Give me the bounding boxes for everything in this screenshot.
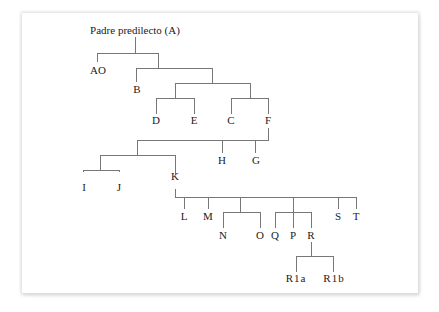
node-r1a: R1a (286, 272, 307, 284)
node-e: E (191, 114, 198, 126)
node-f: F (265, 114, 271, 126)
node-r: R (307, 229, 315, 241)
node-m: M (203, 210, 213, 222)
edge-no-bar (224, 213, 261, 229)
node-ao: AO (90, 64, 106, 76)
edge-f-bar (138, 141, 269, 156)
node-c: C (227, 114, 234, 126)
node-d: D (152, 114, 160, 126)
node-p: P (290, 229, 296, 241)
node-t: T (353, 210, 360, 222)
node-i: I (82, 181, 86, 193)
edge-ij-bar (84, 156, 120, 173)
edge-de-cf-bar (176, 84, 251, 99)
node-g: G (252, 154, 260, 166)
node-r1b: R1b (323, 272, 344, 284)
node-root: Padre predilecto (A) (90, 24, 180, 37)
edge-ijk-bar (100, 156, 176, 176)
node-s: S (335, 210, 341, 222)
edge-cf-bar (232, 99, 269, 115)
edge-b-bar (137, 69, 213, 84)
node-n: N (219, 229, 227, 241)
edge-r1-bar (297, 257, 334, 273)
node-q: Q (271, 229, 279, 241)
tree-labels: Padre predilecto (A) AO B D E C F H G I … (82, 24, 359, 284)
edge-root-bar (98, 54, 159, 69)
node-k: K (171, 170, 179, 182)
tree-diagram: Padre predilecto (A) AO B D E C F H G I … (0, 0, 439, 312)
node-b: B (133, 83, 140, 95)
node-o: O (256, 229, 264, 241)
edge-de-bar (157, 99, 195, 115)
edge-k-bar (176, 198, 357, 210)
node-l: L (181, 210, 188, 222)
node-j: J (117, 181, 122, 193)
node-h: H (218, 154, 226, 166)
